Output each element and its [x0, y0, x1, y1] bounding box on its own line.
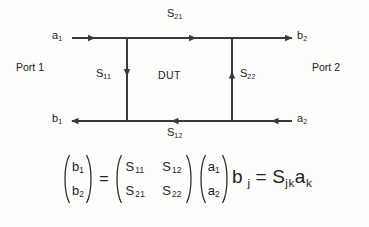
s-parameter-label-s22: S22: [240, 68, 256, 80]
s-parameter-label-s21: S21: [167, 8, 183, 20]
lhs-column-vector: b1 b2: [71, 155, 85, 203]
index-eq-a-term: ak: [295, 166, 312, 189]
diagram-canvas: a1 b2 b1 a2 S21 S12 S11 S22 DUT Port 1 P…: [0, 0, 369, 227]
wave-label-b2: b2: [297, 30, 307, 42]
matrix-cell-11: S 11: [126, 155, 146, 179]
s-parameter-label-s11: S11: [96, 68, 111, 80]
lhs-vector-row-2: b2: [72, 179, 84, 203]
index-eq-s-term: Sjk: [272, 166, 295, 189]
s-parameter-matrix: S 11 S 12 S 21 S 22: [123, 155, 185, 203]
left-paren-close-icon: [85, 154, 96, 204]
matrix-paren-open-icon: [112, 154, 123, 204]
dut-label: DUT: [158, 70, 181, 81]
s-parameter-label-s12: S12: [167, 127, 183, 139]
index-eq-equals: =: [251, 166, 273, 188]
matrix-equation: b1 b2 = S 11 S 12 S 21 S 22: [60, 154, 232, 204]
matrix-cell-22: S 22: [162, 179, 182, 203]
rhs-vector-row-2: a2: [208, 179, 220, 203]
port-2-label: Port 2: [312, 62, 340, 73]
rhs-paren-close-icon: [221, 154, 232, 204]
wave-label-a1: a1: [52, 30, 62, 42]
index-notation-equation: b j = Sjk ak: [232, 166, 312, 189]
equals-sign: =: [96, 170, 111, 188]
port-1-label: Port 1: [16, 62, 44, 73]
matrix-cell-21: S 21: [126, 179, 146, 203]
lhs-vector-row-1: b1: [72, 155, 84, 179]
equations-area: b1 b2 = S 11 S 12 S 21 S 22: [0, 152, 369, 227]
wave-label-b1: b1: [52, 113, 62, 125]
matrix-cell-12: S 12: [162, 155, 182, 179]
rhs-paren-open-icon: [196, 154, 207, 204]
rhs-vector-row-1: a1: [208, 155, 220, 179]
rhs-column-vector: a1 a2: [207, 155, 221, 203]
wave-label-a2: a2: [297, 113, 307, 125]
index-eq-lhs: b j: [232, 166, 251, 189]
matrix-paren-close-icon: [185, 154, 196, 204]
left-paren-open-icon: [60, 154, 71, 204]
